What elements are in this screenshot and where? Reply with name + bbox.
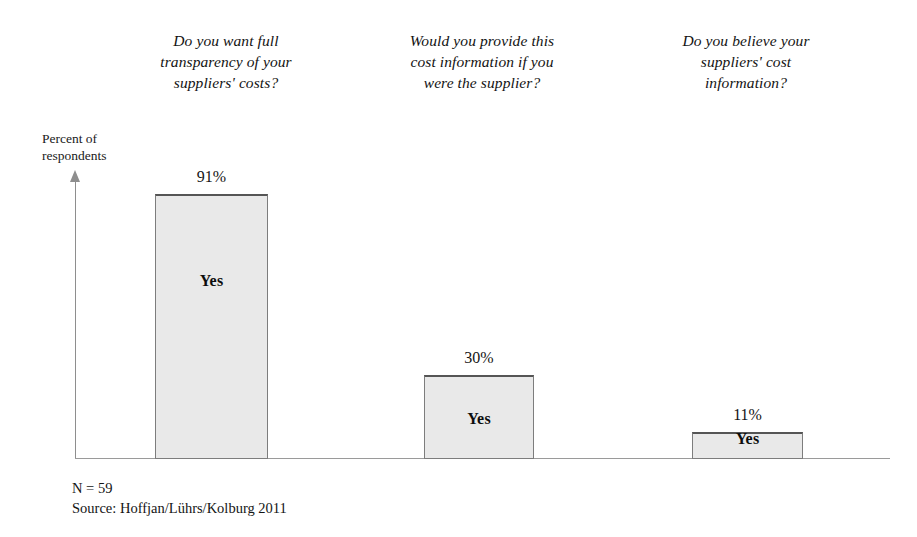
bar-inner-label-1: Yes [155,272,268,290]
bar-value-label-3: 11% [692,406,803,424]
question-header-1-line-2: transparency of your [160,53,291,70]
bar-1 [155,194,268,459]
y-axis-line [75,180,76,459]
question-header-1: Do you want full transparency of your su… [136,30,316,93]
y-axis-label-line-2: respondents [42,148,107,163]
question-header-2-line-3: were the supplier? [424,74,541,91]
figure-footnotes: N = 59 Source: Hoffjan/Lührs/Kolburg 201… [72,478,287,518]
bar-inner-label-3: Yes [692,430,803,448]
question-header-2-line-1: Would you provide this [410,32,554,49]
question-header-2: Would you provide this cost information … [392,30,572,93]
bar-value-label-2: 30% [424,349,534,367]
sample-size-note: N = 59 [72,478,287,498]
question-header-3-line-2: suppliers' cost [701,53,792,70]
question-header-2-line-2: cost information if you [410,53,553,70]
y-axis-label: Percent of respondents [42,130,162,164]
bar-inner-label-2: Yes [424,410,534,428]
question-header-3-line-3: information? [705,74,787,91]
y-axis-label-line-1: Percent of [42,131,97,146]
question-header-3-line-1: Do you believe your [682,32,809,49]
question-header-3: Do you believe your suppliers' cost info… [658,30,834,93]
question-header-1-line-1: Do you want full [173,32,278,49]
source-note: Source: Hoffjan/Lührs/Kolburg 2011 [72,498,287,518]
bar-chart-figure: Do you want full transparency of your su… [0,0,917,537]
bar-value-label-1: 91% [155,168,268,186]
question-header-1-line-3: suppliers' costs? [174,74,278,91]
